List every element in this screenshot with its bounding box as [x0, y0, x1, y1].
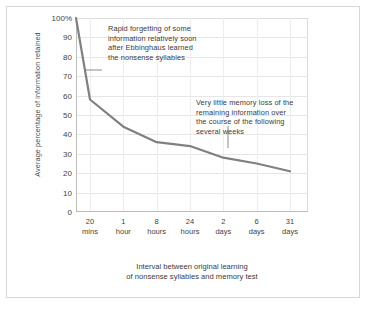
x-tick-unit: days — [282, 227, 298, 237]
y-tick-label: 80 — [63, 52, 72, 61]
x-tick-unit: hour — [116, 227, 131, 237]
y-tick-label: 90 — [63, 33, 72, 42]
x-tick-unit: hours — [147, 227, 166, 237]
x-tick-label: 2days — [215, 217, 231, 236]
y-axis-title: Average percentage of information retain… — [33, 10, 42, 200]
x-tick-unit: days — [249, 227, 265, 237]
x-tick-value: 2 — [221, 217, 225, 226]
annotation-little-memory-loss: Very little memory loss of the remaining… — [196, 98, 336, 136]
x-tick-value: 31 — [286, 217, 294, 226]
x-tick-value: 1 — [121, 217, 125, 226]
forgetting-curve-figure: Average percentage of information retain… — [0, 0, 368, 310]
y-tick-label: 60 — [63, 91, 72, 100]
y-tick-label: 30 — [63, 149, 72, 158]
y-tick-label: 0 — [68, 208, 72, 217]
x-tick-label: 31days — [282, 217, 298, 236]
x-tick-value: 20 — [86, 217, 94, 226]
x-tick-label: 24hours — [181, 217, 200, 236]
x-axis-title: Interval between original learning of no… — [64, 262, 320, 282]
x-tick-value: 24 — [186, 217, 194, 226]
x-tick-label: 8hours — [147, 217, 166, 236]
x-tick-label: 6days — [249, 217, 265, 236]
y-tick-label: 20 — [63, 169, 72, 178]
x-tick-unit: mins — [82, 227, 98, 237]
x-tick-unit: hours — [181, 227, 200, 237]
x-tick-unit: days — [215, 227, 231, 237]
x-tick-label: 1hour — [116, 217, 131, 236]
annotation-rapid-forgetting: Rapid forgetting of some information rel… — [108, 24, 238, 62]
y-tick-label: 40 — [63, 130, 72, 139]
x-tick-value: 8 — [155, 217, 159, 226]
x-tick-value: 6 — [255, 217, 259, 226]
y-tick-label: 70 — [63, 72, 72, 81]
y-tick-label: 100% — [52, 14, 72, 23]
x-tick-label: 20mins — [82, 217, 98, 236]
y-tick-label: 10 — [63, 188, 72, 197]
y-tick-label: 50 — [63, 111, 72, 120]
